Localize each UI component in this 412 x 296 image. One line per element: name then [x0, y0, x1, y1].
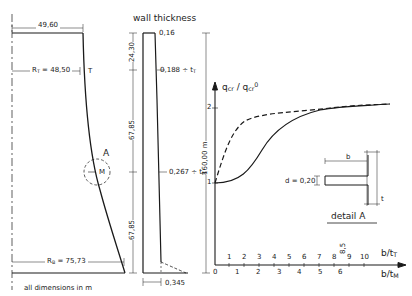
- shell-top-width-label: 49,60: [36, 22, 60, 29]
- x-label-T: b/tT: [381, 249, 397, 259]
- wall-title: wall thickness: [133, 14, 196, 23]
- xM-5: 5: [318, 269, 322, 276]
- xT-2: 2: [242, 254, 246, 261]
- xM-1: 1: [235, 269, 239, 276]
- xM-0: 0: [213, 269, 217, 276]
- xT-8-5: 8,5: [340, 243, 347, 254]
- xT-10: 10: [360, 254, 369, 261]
- detail-b-label: b: [346, 154, 350, 161]
- wall-seg-2: 67,85: [129, 120, 136, 140]
- xT-9: 9: [347, 254, 351, 261]
- wall-base-dashed: [161, 262, 186, 273]
- wall-t-mid: 0,267 ÷ tM: [169, 169, 206, 176]
- detail-flange: [325, 167, 368, 176]
- shell-center-marker: M: [99, 169, 105, 176]
- footnote: all dimensions in m: [24, 285, 92, 292]
- wall-seg-3: 67,85: [129, 220, 136, 240]
- detail-d-label: d = 0,20: [285, 178, 315, 185]
- detail-t-label: t: [381, 196, 384, 203]
- wall-t-top: 0,188 ÷ tT: [160, 67, 196, 74]
- shell-t-marker: T: [88, 68, 92, 75]
- xT-8: 8: [332, 254, 336, 261]
- xM-3: 3: [277, 269, 281, 276]
- xT-3: 3: [257, 254, 261, 261]
- detail-title: detail A: [331, 212, 365, 221]
- wall-top-thickness: 0,16: [159, 30, 175, 37]
- xM-6: 6: [338, 269, 342, 276]
- xT-4: 4: [272, 254, 276, 261]
- shell-r-top-label: RT = 48,50: [30, 67, 72, 74]
- xT-7: 7: [317, 254, 321, 261]
- detail-a-marker: A: [103, 149, 109, 158]
- xM-2: 2: [256, 269, 260, 276]
- y-tick-2: 2: [207, 104, 211, 111]
- y-tick-1: 1: [207, 179, 211, 186]
- xM-4: 4: [297, 269, 301, 276]
- shell-r-bottom-label: RB = 75,73: [45, 258, 88, 265]
- xT-1: 1: [227, 254, 231, 261]
- x-label-M: b/tM: [381, 270, 399, 280]
- wall-base-thickness: 0,345: [165, 280, 185, 287]
- chart-y-label: qcr / qcr0: [222, 82, 258, 93]
- xT-6: 6: [302, 254, 306, 261]
- wall-seg-1: 24,30: [129, 42, 136, 62]
- xT-5: 5: [287, 254, 291, 261]
- solid-curve: [215, 104, 390, 183]
